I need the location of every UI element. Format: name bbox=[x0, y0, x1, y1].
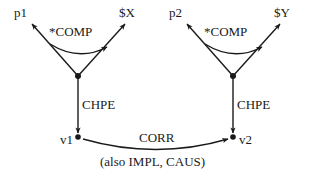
relation-label-corr: CORR bbox=[139, 131, 174, 144]
node-label-sx: $X bbox=[119, 6, 135, 19]
node-v2-dot bbox=[230, 134, 236, 140]
relation-label-comp-right: *COMP bbox=[204, 25, 247, 38]
node-v1-dot bbox=[75, 134, 81, 140]
node-label-sy: $Y bbox=[274, 6, 290, 19]
diagram-canvas: p1 $X p2 $Y *COMP *COMP CHPE CHPE v1 v2 … bbox=[0, 0, 311, 179]
node-label-p2: p2 bbox=[169, 6, 182, 19]
diagram-graphics bbox=[0, 0, 311, 179]
node-label-v2: v2 bbox=[239, 133, 252, 146]
relation-label-chpe-left: CHPE bbox=[82, 98, 115, 111]
node-label-p1: p1 bbox=[14, 6, 27, 19]
relation-label-chpe-right: CHPE bbox=[237, 98, 270, 111]
node-label-v1: v1 bbox=[60, 133, 73, 146]
relation-label-comp-left: *COMP bbox=[49, 25, 92, 38]
relation-label-corr-alternatives: (also IMPL, CAUS) bbox=[100, 155, 205, 168]
